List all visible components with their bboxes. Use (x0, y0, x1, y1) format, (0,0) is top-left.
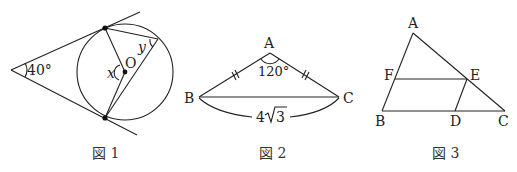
angle-arc-x (114, 65, 120, 80)
caption-figure-2: 図 2 (259, 145, 286, 161)
vertex-label-b-3: B (375, 113, 385, 129)
dimension-arc-left (199, 98, 252, 117)
caption-figure-3: 図 3 (432, 145, 459, 161)
angle-label-40: 40° (27, 62, 52, 78)
segment-ed (455, 79, 467, 111)
tangent-point-bottom (102, 115, 107, 120)
vertex-label-b: B (184, 90, 194, 106)
vertex-label-f-3: F (384, 67, 394, 83)
chord-top (105, 28, 158, 39)
dimension-arc-right (290, 98, 339, 117)
label-o: O (125, 55, 136, 71)
label-x: x (107, 65, 115, 81)
vertex-label-e-3: E (470, 67, 480, 83)
vertex-label-a: A (263, 35, 275, 51)
angle-arc-a (261, 59, 279, 64)
figure-2: A B C 120° 4 3 図 2 (184, 35, 354, 161)
label-y: y (137, 39, 147, 55)
caption-figure-1: 図 1 (92, 145, 119, 161)
geometry-figures: 40° x y O 図 1 A B C 120° 4 3 図 2 (0, 0, 517, 172)
length-coeff: 4 (256, 109, 265, 125)
length-radicand: 3 (276, 109, 285, 125)
figure-3: A B C D E F 図 3 (375, 15, 509, 161)
figure-1: 40° x y O 図 1 (11, 12, 173, 161)
tangent-point-top (102, 25, 107, 30)
vertex-label-c-3: C (498, 113, 509, 129)
angle-arc-y (150, 39, 153, 47)
vertex-label-d-3: D (450, 113, 461, 129)
angle-label-120: 120° (258, 64, 289, 79)
vertex-label-a-3: A (407, 15, 419, 31)
vertex-label-c: C (343, 90, 354, 106)
